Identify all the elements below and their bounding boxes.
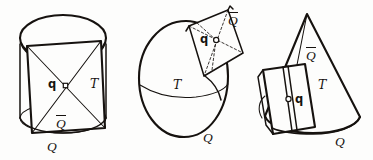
- cone-label-q-bar: Q: [306, 47, 316, 62]
- cylinder-label-tangent: T: [90, 78, 98, 91]
- cylinder-label-q-bar: Q: [56, 115, 66, 130]
- cone-label-q: q: [295, 94, 303, 106]
- cone-point-marker: [286, 96, 291, 101]
- ovoid-label-base-q: Q: [203, 131, 213, 145]
- cylinder-label-q: q: [48, 79, 56, 91]
- ovoid-point-marker: [214, 37, 219, 42]
- geometric-figure: q T Q Q q T Q Q q T Q Q: [0, 0, 373, 160]
- cylinder-label-base-q: Q: [47, 140, 57, 154]
- cone-label-tangent: T: [318, 79, 326, 92]
- ovoid-label-q: q: [200, 34, 208, 46]
- ovoid-label-q-bar: Q: [228, 12, 238, 27]
- cylinder-point-marker: [63, 83, 67, 87]
- cone-label-base-q: Q: [335, 135, 345, 149]
- ovoid-label-tangent: T: [173, 79, 181, 92]
- cone-panel: [258, 14, 360, 134]
